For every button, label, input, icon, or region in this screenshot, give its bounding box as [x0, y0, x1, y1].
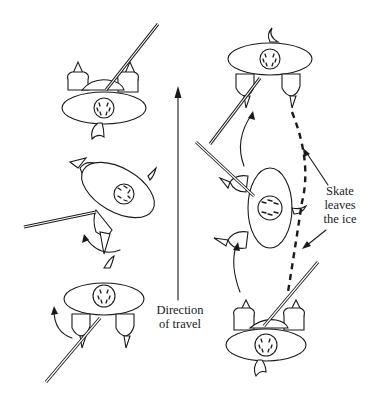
skate-label-line1: Skate	[314, 184, 366, 198]
direction-label-line1: Direction	[148, 303, 212, 317]
direction-arrow	[175, 86, 182, 300]
figure-right-bottom	[226, 242, 318, 376]
skate-label: Skate leaves the ice	[314, 184, 366, 226]
figure-right-middle	[196, 111, 306, 248]
figure-left-middle	[24, 151, 164, 254]
direction-label: Direction of travel	[148, 303, 212, 331]
skate-label-line2: leaves	[314, 198, 366, 212]
direction-label-line2: of travel	[148, 317, 212, 331]
skate-label-line3: the ice	[314, 212, 366, 226]
figure-left-top	[62, 24, 158, 139]
figure-left-bottom	[46, 256, 144, 382]
